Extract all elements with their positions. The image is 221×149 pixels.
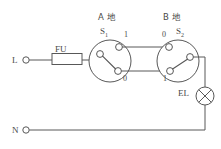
live-terminal-node: [23, 57, 29, 63]
switch-b-terminal-0[interactable]: [166, 44, 173, 51]
live-terminal-label: L: [12, 56, 18, 65]
neutral-terminal-label: N: [12, 126, 19, 135]
fuse-label: FU: [55, 45, 67, 54]
site-b-label: B 地: [163, 13, 181, 22]
switch-b-terminal-1-label: 1: [163, 75, 167, 83]
switch-a-label-subscript: 1: [105, 32, 108, 38]
switch-b-terminal-0-label: 0: [162, 31, 166, 39]
circuit-schematic: [0, 0, 221, 149]
switch-a-terminal-0-label: 0: [123, 75, 127, 83]
switch-a-terminal-1-label: 1: [124, 31, 128, 39]
lamp-label: EL: [178, 89, 189, 98]
switch-a-label: S1: [100, 27, 108, 38]
switch-a-terminal-1[interactable]: [116, 44, 123, 51]
neutral-terminal-node: [23, 127, 29, 133]
switch-b-label-subscript: 2: [181, 32, 184, 38]
fuse-body: [52, 54, 82, 65]
circuit-diagram: L N FU EL A 地 B 地 S1 S2 1 0 0 1: [0, 0, 221, 149]
switch-b-label: S2: [176, 27, 184, 38]
site-a-label: A 地: [98, 13, 116, 22]
